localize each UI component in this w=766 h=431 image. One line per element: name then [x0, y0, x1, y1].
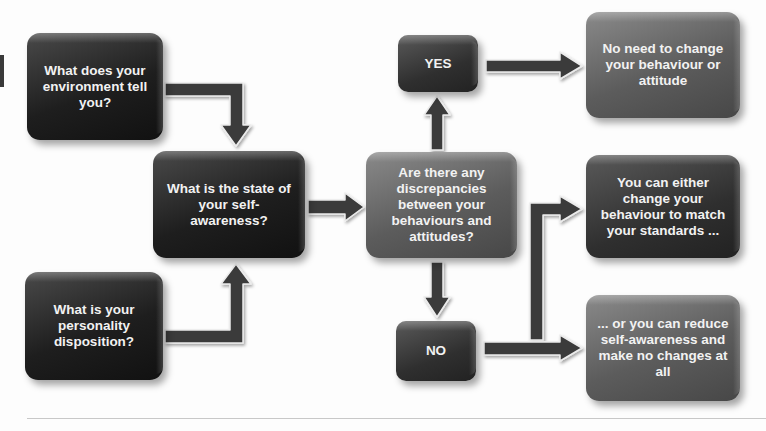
- node-disposition: What is your personality disposition?: [25, 272, 163, 380]
- node-yes: YES: [398, 35, 478, 92]
- flowchart: What does your environment tell you? Wha…: [0, 0, 766, 431]
- node-no: NO: [396, 321, 476, 381]
- node-yes-label: YES: [424, 56, 451, 72]
- node-environment: What does your environment tell you?: [27, 33, 163, 140]
- arrow-selfawareness-to-discrepancies: [308, 193, 364, 221]
- node-self-awareness-label: What is the state of your self-awareness…: [167, 181, 291, 229]
- node-change-behaviour: You can either change your behaviour to …: [586, 155, 740, 258]
- node-no-label: NO: [426, 343, 446, 359]
- node-no-change-label: No need to change your behaviour or atti…: [598, 41, 728, 89]
- arrow-no-to-changebehaviour: [530, 196, 582, 340]
- node-no-change: No need to change your behaviour or atti…: [586, 12, 740, 118]
- bottom-divider: [27, 418, 766, 419]
- arrow-yes-to-nochange: [486, 52, 582, 79]
- node-discrepancies: Are there any discrepancies between your…: [366, 152, 517, 258]
- node-environment-label: What does your environment tell you?: [35, 63, 155, 111]
- node-change-behaviour-label: You can either change your behaviour to …: [594, 175, 732, 239]
- node-self-awareness: What is the state of your self-awareness…: [153, 151, 305, 258]
- node-discrepancies-label: Are there any discrepancies between your…: [376, 165, 507, 245]
- arrow-discrepancies-to-no: [424, 262, 450, 317]
- node-disposition-label: What is your personality disposition?: [33, 302, 155, 350]
- arrow-disposition-to-selfawareness: [165, 264, 251, 343]
- arrow-environment-to-selfawareness: [165, 83, 251, 146]
- node-reduce-awareness: ... or you can reduce self-awareness and…: [586, 295, 740, 401]
- arrow-discrepancies-to-yes: [424, 96, 450, 150]
- node-reduce-awareness-label: ... or you can reduce self-awareness and…: [592, 316, 734, 380]
